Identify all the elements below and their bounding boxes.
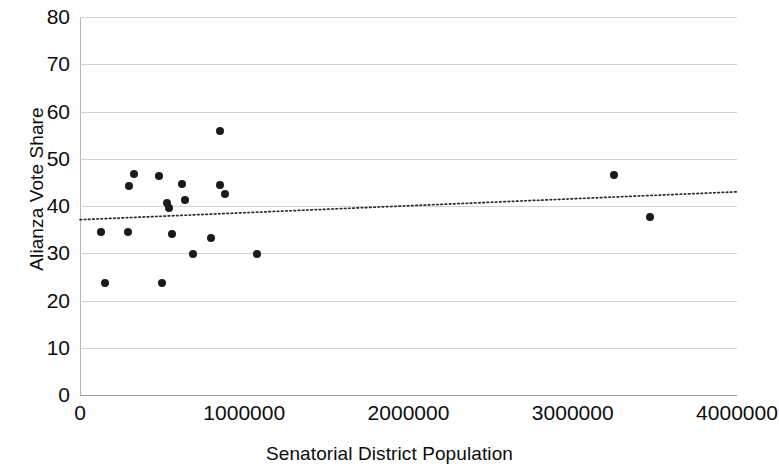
y-tick-label: 70 (26, 53, 70, 74)
data-point (646, 213, 654, 221)
y-tick-label: 60 (26, 101, 70, 122)
gridline (80, 112, 737, 113)
gridline (80, 301, 737, 302)
data-point (101, 279, 109, 287)
gridline (80, 253, 737, 254)
x-tick-label: 1000000 (164, 402, 324, 423)
data-point (207, 234, 215, 242)
x-tick-label: 4000000 (657, 402, 779, 423)
data-point (178, 180, 186, 188)
x-tick-label: 3000000 (493, 402, 653, 423)
data-point (168, 230, 176, 238)
y-tick-label: 40 (26, 195, 70, 216)
gridline (80, 17, 737, 18)
x-tick-label: 2000000 (329, 402, 489, 423)
scatter-chart: Alianza Vote Share 01020304050607080 010… (0, 0, 779, 468)
data-point (216, 127, 224, 135)
data-point (158, 279, 166, 287)
gridline (80, 348, 737, 349)
y-axis-tick-labels: 01020304050607080 (20, 0, 70, 468)
data-point (216, 181, 224, 189)
data-point (130, 170, 138, 178)
data-point (221, 190, 229, 198)
data-point (253, 250, 261, 258)
data-point (181, 196, 189, 204)
y-tick-label: 10 (26, 337, 70, 358)
data-point (125, 182, 133, 190)
y-tick-label: 80 (26, 6, 70, 27)
y-tick-label: 50 (26, 148, 70, 169)
data-point (155, 172, 163, 180)
data-point (189, 250, 197, 258)
gridline (80, 159, 737, 160)
data-point (124, 228, 132, 236)
gridline (80, 64, 737, 65)
x-axis-tick-labels: 01000000200000030000004000000 (0, 402, 779, 432)
plot-area (80, 17, 737, 395)
data-point (165, 204, 173, 212)
gridline (80, 206, 737, 207)
x-tick-label: 0 (0, 402, 160, 423)
y-tick-label: 30 (26, 242, 70, 263)
data-point (97, 228, 105, 236)
data-point (610, 171, 618, 179)
y-tick-label: 20 (26, 290, 70, 311)
x-axis-title: Senatorial District Population (0, 443, 779, 465)
x-axis-line (80, 395, 737, 396)
